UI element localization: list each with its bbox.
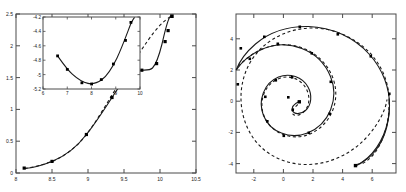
svg-text:4: 4: [230, 36, 233, 42]
right-panel: -2 0 2 4 6 -4 -2 0 2 4: [203, 0, 406, 192]
svg-text:-4: -4: [229, 161, 234, 167]
svg-text:1: 1: [10, 106, 13, 112]
left-panel-axes: 8 8.5 9 9.5 10 10.5 0 0.5 1 1.5 2 2.5: [0, 0, 203, 192]
right-x-ticklabels: -2 0 2 4 6: [252, 176, 374, 182]
svg-text:0: 0: [230, 98, 233, 104]
svg-text:-4.4: -4.4: [33, 29, 41, 34]
svg-text:6: 6: [371, 176, 374, 182]
svg-text:1.5: 1.5: [6, 75, 13, 81]
svg-text:9.5: 9.5: [121, 176, 128, 182]
left-panel: 8 8.5 9 9.5 10 10.5 0 0.5 1 1.5 2 2.5: [0, 0, 203, 192]
svg-text:-5: -5: [37, 73, 42, 78]
svg-text:-4.8: -4.8: [33, 58, 41, 63]
svg-text:10: 10: [157, 176, 163, 182]
svg-text:8: 8: [90, 91, 93, 96]
svg-text:-4.6: -4.6: [33, 44, 41, 49]
right-plot-frame: [236, 14, 396, 173]
svg-text:2: 2: [312, 176, 315, 182]
svg-text:6: 6: [42, 91, 45, 96]
svg-text:0: 0: [10, 170, 13, 176]
svg-text:9: 9: [87, 176, 90, 182]
svg-text:-5.2: -5.2: [33, 87, 41, 92]
svg-text:-2: -2: [252, 176, 257, 182]
svg-text:10.5: 10.5: [191, 176, 201, 182]
svg-text:-4.2: -4.2: [33, 15, 41, 20]
svg-text:-2: -2: [229, 129, 234, 135]
svg-text:0: 0: [282, 176, 285, 182]
svg-text:2: 2: [10, 43, 13, 49]
svg-text:0.5: 0.5: [6, 138, 13, 144]
left-y-ticklabels: 0 0.5 1 1.5 2 2.5: [6, 11, 13, 176]
svg-text:7: 7: [66, 91, 69, 96]
right-panel-axes: -2 0 2 4 6 -4 -2 0 2 4: [203, 0, 406, 192]
svg-text:8: 8: [15, 176, 18, 182]
svg-text:9: 9: [114, 91, 117, 96]
left-x-ticklabels: 8 8.5 9 9.5 10 10.5: [15, 176, 201, 182]
svg-text:8.5: 8.5: [49, 176, 56, 182]
svg-text:4: 4: [341, 176, 344, 182]
right-y-ticklabels: -4 -2 0 2 4: [229, 36, 234, 167]
inset-plot-frame: [43, 17, 140, 89]
svg-text:2.5: 2.5: [6, 11, 13, 17]
svg-text:10: 10: [137, 91, 143, 96]
svg-text:2: 2: [230, 67, 233, 73]
figure-canvas: 8 8.5 9 9.5 10 10.5 0 0.5 1 1.5 2 2.5: [0, 0, 406, 192]
